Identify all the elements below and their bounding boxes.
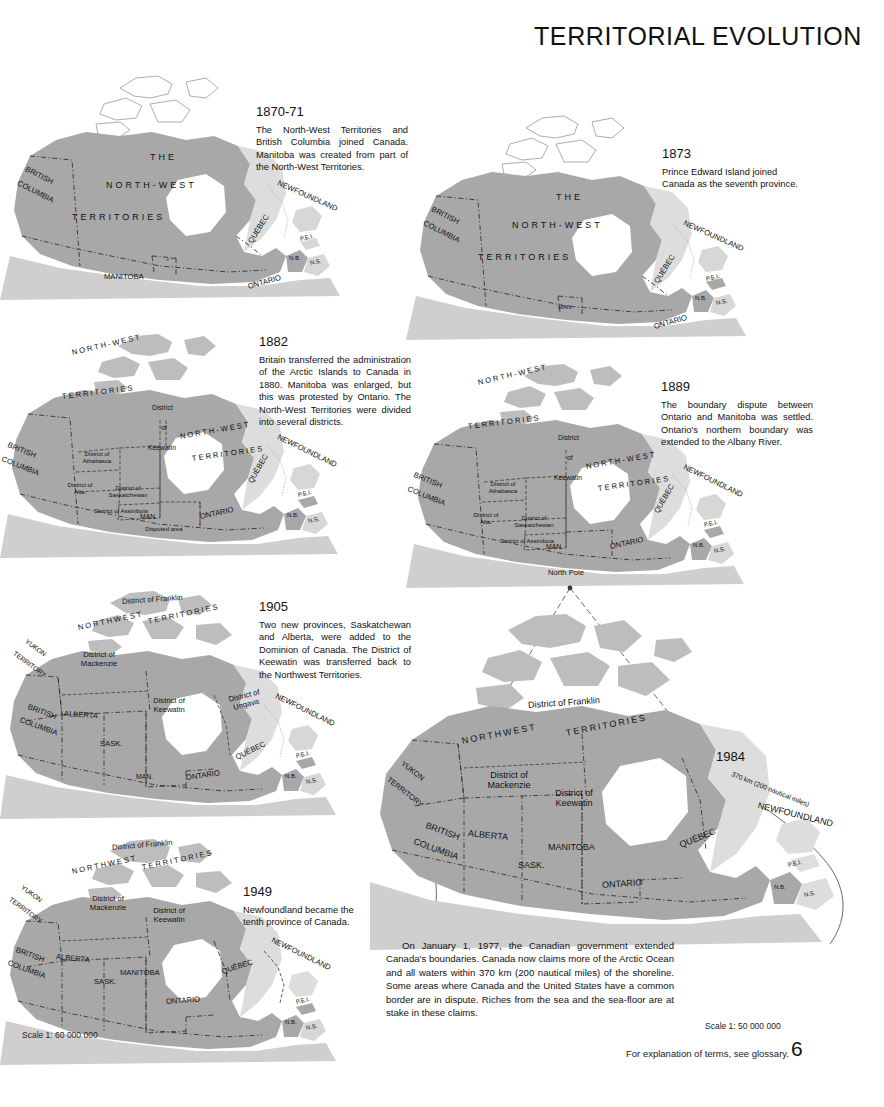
caption-body: Newfoundland became the tenth province o… (243, 904, 369, 929)
label-nb: N.B. (289, 255, 301, 261)
label-district-keewatin: District of Keewatin (140, 697, 198, 714)
label-district-alta: District of Alta. (62, 482, 98, 496)
caption-1870-71: 1870-71 The North-West Territories and B… (256, 104, 408, 174)
caption-body: Britain transferred the administration o… (259, 354, 411, 429)
label-nb: N.B. (285, 1019, 297, 1025)
label-manitoba: MAN. (558, 304, 573, 310)
label-district: District (152, 404, 173, 411)
label-district: District (558, 434, 579, 441)
caption-body: The North-West Territories and British C… (256, 124, 408, 174)
label-district-saskatchewan: District of Saskatchewan (101, 485, 155, 499)
label-district-mackenzie: District of Mackenzie (71, 651, 127, 668)
label-district-athabasca: District of Athabasca (76, 451, 118, 465)
label-nb: N.B. (774, 884, 786, 890)
caption-1977-body: On January 1, 1977, the Canadian governm… (386, 939, 674, 1020)
page-title: TERRITORIAL EVOLUTION (534, 22, 862, 51)
page-number: 6 (791, 1037, 803, 1061)
label-of: of (161, 424, 167, 431)
label-manitoba: MANITOBA (104, 272, 144, 281)
caption-1889: 1889 The boundary dispute between Ontari… (661, 379, 813, 449)
label-manitoba: MAN. (136, 773, 153, 780)
label-district-mackenzie: District of Mackenzie (80, 895, 136, 912)
label-territories: TERRITORIES (478, 252, 571, 262)
label-the: THE (556, 192, 583, 202)
label-territories: TERRITORIES (72, 212, 165, 222)
caption-year: 1882 (259, 334, 411, 349)
map-1949: District of Franklin NORTHWEST TERRITORI… (0, 825, 400, 1060)
caption-1984-year: 1984 (716, 749, 745, 764)
map-1870-71: THE NORTH-WEST TERRITORIES BRITISH COLUM… (0, 60, 400, 310)
label-district-alta: District of Alta. (468, 512, 504, 526)
caption-year: 1873 (662, 146, 802, 161)
label-north-west: NORTH-WEST (512, 220, 603, 230)
label-district-keewatin: District of Keewatin (140, 907, 198, 924)
label-sask: SASK. (94, 977, 116, 986)
label-keewatin: Keewatin (554, 474, 582, 481)
label-sask: SASK. (518, 860, 545, 870)
label-of: of (567, 454, 573, 461)
label-district-mackenzie: District of Mackenzie (474, 770, 544, 791)
footer-note: For explanation of terms, see glossary. (626, 1048, 789, 1059)
label-district-saskatchewan: District of Saskatchewan (507, 515, 561, 529)
label-manitoba: MANITOBA (548, 842, 595, 852)
label-sask: SASK. (100, 739, 122, 748)
caption-year: 1949 (243, 884, 369, 899)
label-north-west: NORTH-WEST (106, 180, 197, 190)
label-the: THE (150, 152, 177, 162)
caption-body: Prince Edward Island joined Canada as th… (662, 166, 802, 191)
label-district-athabasca: District of Athabasca (482, 481, 524, 495)
caption-year: 1889 (661, 379, 813, 394)
map-1949-graphic (0, 825, 400, 1060)
scale-note-left: Scale 1: 60 000 000 (22, 1030, 98, 1040)
label-north-pole: North Pole (548, 568, 584, 577)
caption-1949: 1949 Newfoundland became the tenth provi… (243, 884, 369, 929)
label-district-keewatin: District of Keewatin (538, 788, 610, 809)
caption-body: The boundary dispute between Ontario and… (661, 399, 813, 449)
label-keewatin: Keewatin (148, 444, 176, 451)
label-nb: N.B. (285, 773, 297, 779)
map-1873: THE NORTH-WEST TERRITORIES BRITISH COLUM… (406, 100, 806, 350)
map-1873-graphic (406, 100, 806, 350)
map-1870-71-graphic (0, 60, 400, 310)
label-manitoba: MAN. (546, 543, 563, 550)
label-manitoba: MANITOBA (120, 968, 160, 977)
label-nb: N.B. (693, 542, 705, 548)
scale-note-right: Scale 1: 50 000 000 (705, 1021, 781, 1031)
caption-1882: 1882 Britain transferred the administrat… (259, 334, 411, 429)
label-manitoba: MAN. (140, 513, 157, 520)
caption-year: 1870-71 (256, 104, 408, 119)
label-disputed-area: Disputed area (142, 526, 186, 533)
label-nb: N.B. (695, 295, 707, 301)
caption-1873: 1873 Prince Edward Island joined Canada … (662, 146, 802, 191)
label-nb: N.B. (287, 512, 299, 518)
atlas-page: TERRITORIAL EVOLUTION (0, 0, 884, 1107)
